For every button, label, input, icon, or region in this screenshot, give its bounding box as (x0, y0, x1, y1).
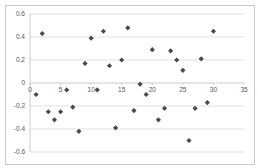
data-point-diamond (180, 68, 185, 73)
axes (30, 14, 244, 152)
data-point-diamond (211, 29, 216, 34)
x-tick-label: 5 (59, 86, 63, 93)
y-tick-label: 0.4 (16, 33, 25, 40)
data-point-diamond (186, 138, 191, 143)
data-point-diamond (119, 57, 124, 62)
data-point-diamond (150, 47, 155, 52)
data-point-diamond (156, 117, 161, 122)
data-point-diamond (101, 29, 106, 34)
data-point-diamond (76, 129, 81, 134)
data-point-diamond (205, 100, 210, 105)
data-point-diamond (199, 56, 204, 61)
data-point-diamond (52, 117, 57, 122)
x-tick-label: 15 (118, 86, 126, 93)
data-point-diamond (46, 109, 51, 114)
x-tick-label: 30 (210, 86, 218, 93)
data-point-diamond (58, 109, 63, 114)
data-point-diamond (89, 36, 94, 41)
data-point-diamond (192, 106, 197, 111)
y-tick-label: 0 (21, 79, 25, 86)
scatter-chart: -0.6-0.4-0.200.20.40.6 05101520253035 (0, 0, 258, 168)
x-tick-label: 20 (149, 86, 157, 93)
data-point-diamond (162, 106, 167, 111)
data-point-diamond (34, 92, 39, 97)
data-point-diamond (168, 48, 173, 53)
data-point-diamond (131, 108, 136, 113)
data-point-diamond (174, 57, 179, 62)
data-point-diamond (137, 82, 142, 87)
data-point-diamond (82, 61, 87, 66)
y-axis-labels: -0.6-0.4-0.200.20.40.6 (14, 10, 26, 155)
x-tick-label: 35 (240, 86, 248, 93)
x-tick-label: 0 (28, 86, 32, 93)
x-axis-labels: 05101520253035 (28, 86, 248, 93)
data-point-diamond (113, 125, 118, 130)
y-tick-label: -0.6 (14, 148, 26, 155)
data-point-diamond (107, 63, 112, 68)
x-tick-label: 25 (179, 86, 187, 93)
y-tick-label: 0.6 (16, 10, 25, 17)
data-point-diamond (125, 25, 130, 30)
data-point-diamond (64, 87, 69, 92)
data-point-diamond (40, 31, 45, 36)
y-tick-label: -0.2 (14, 102, 26, 109)
data-point-diamond (95, 87, 100, 92)
data-point-diamond (70, 105, 75, 110)
y-tick-label: 0.2 (16, 56, 25, 63)
x-tick-label: 10 (88, 86, 96, 93)
y-tick-label: -0.4 (14, 125, 26, 132)
